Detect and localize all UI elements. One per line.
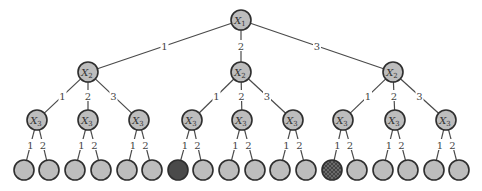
leaf-node — [91, 160, 111, 180]
edge-label: 1 — [232, 140, 238, 151]
edge-label: 3 — [416, 91, 422, 102]
node-subscript: 3 — [293, 120, 297, 128]
leaf-node — [398, 160, 418, 180]
level3-node: X3 — [436, 110, 456, 130]
node-subscript: 3 — [37, 120, 41, 128]
node-subscript: 3 — [88, 120, 92, 128]
edge-label: 1 — [365, 91, 371, 102]
edge-label: 2 — [194, 140, 200, 151]
leaf-node — [65, 160, 85, 180]
leaf-node — [39, 160, 59, 180]
leaf-node — [245, 160, 265, 180]
level2-node: X2 — [78, 62, 98, 82]
level3-node: X3 — [78, 110, 98, 130]
level3-node: X3 — [232, 110, 252, 130]
edge-label: 1 — [130, 140, 136, 151]
leaf-node — [347, 160, 367, 180]
node-subscript: 3 — [343, 120, 347, 128]
edge-label: 1 — [386, 140, 392, 151]
leaf-node — [117, 160, 137, 180]
edge-label: 2 — [347, 140, 353, 151]
edge-label: 1 — [213, 91, 219, 102]
edge-label: 1 — [334, 140, 340, 151]
level2-node: X2 — [231, 62, 251, 82]
leaf-node — [219, 160, 239, 180]
node-subscript: 1 — [241, 20, 245, 28]
leaf-node — [142, 160, 162, 180]
level3-node: X3 — [27, 110, 47, 130]
root-node: X1 — [231, 10, 251, 30]
leaf-node — [373, 160, 393, 180]
node-subscript: 3 — [242, 120, 246, 128]
edge-label: 2 — [296, 140, 302, 151]
edge-label: 1 — [283, 140, 289, 151]
node-subscript: 3 — [446, 120, 450, 128]
node-subscript: 3 — [192, 120, 196, 128]
node-subscript: 2 — [393, 72, 397, 80]
level2-node: X2 — [383, 62, 403, 82]
edge-label: 1 — [78, 140, 84, 151]
leaf-node — [449, 160, 469, 180]
edge-label: 2 — [91, 140, 97, 151]
leaf-node — [424, 160, 444, 180]
leaf-node — [270, 160, 290, 180]
leaf-node — [296, 160, 316, 180]
leaf-node-selected — [168, 160, 188, 180]
edge-label: 3 — [314, 41, 320, 52]
node-subscript: 3 — [395, 120, 399, 128]
edge-label: 1 — [27, 140, 33, 151]
edge-label: 1 — [59, 91, 65, 102]
edge-label: 2 — [142, 140, 148, 151]
level3-node: X3 — [333, 110, 353, 130]
edge-label: 2 — [40, 140, 46, 151]
edge-label: 1 — [182, 140, 188, 151]
tree-diagram: 123123123123121212121212121212 X1X2X2X2X… — [0, 0, 482, 191]
edge-label: 2 — [238, 91, 244, 102]
leaf-node — [193, 160, 213, 180]
edge-label: 1 — [437, 140, 443, 151]
level3-node: X3 — [283, 110, 303, 130]
edge-label: 3 — [110, 91, 116, 102]
leaf-node-hatched — [322, 160, 342, 180]
node-subscript: 3 — [139, 120, 143, 128]
edge-label: 2 — [449, 140, 455, 151]
edge-label: 3 — [264, 91, 270, 102]
level3-node: X3 — [129, 110, 149, 130]
leaf-node — [14, 160, 34, 180]
node-subscript: 2 — [88, 72, 92, 80]
edge-label: 2 — [245, 140, 251, 151]
node-subscript: 2 — [241, 72, 245, 80]
edge-label: 2 — [85, 91, 91, 102]
edge-label: 2 — [391, 91, 397, 102]
level3-node: X3 — [182, 110, 202, 130]
edge-label: 2 — [398, 140, 404, 151]
edge-label: 1 — [161, 41, 167, 52]
edge-label: 2 — [238, 41, 244, 52]
level3-node: X3 — [385, 110, 405, 130]
